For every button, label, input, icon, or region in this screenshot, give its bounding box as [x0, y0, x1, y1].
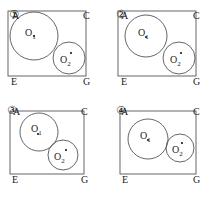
corner-label-c: C — [81, 107, 88, 117]
circle-o2-label: O2 — [60, 55, 71, 65]
circle-o2-center-dot — [180, 52, 182, 54]
panel-2: ② A C E G O1 O2 — [110, 0, 220, 99]
corner-label-c: C — [193, 11, 200, 21]
corner-label-g: G — [193, 175, 200, 185]
corner-label-c: C — [193, 107, 200, 117]
circle-o1-label: O1 — [25, 28, 36, 38]
corner-label-g: G — [193, 77, 200, 87]
circle-o1-label: O1 — [140, 131, 151, 141]
panel-1: ① A C E G O1 O2 — [0, 0, 110, 99]
circle-o2-center-dot — [181, 142, 183, 144]
circle-o2-label: O2 — [54, 152, 65, 162]
corner-label-a: A — [121, 107, 128, 117]
corner-label-e: E — [121, 77, 127, 87]
square-outline — [120, 111, 196, 174]
figure-root: ① A C E G O1 O2 ② A C E G O1 O2 — [0, 0, 220, 199]
square-outline — [8, 11, 86, 76]
corner-label-c: C — [83, 11, 90, 21]
corner-label-e: E — [122, 175, 128, 185]
corner-label-e: E — [11, 77, 17, 87]
circle-o1-label: O1 — [138, 28, 149, 38]
corner-label-g: G — [81, 175, 88, 185]
corner-label-e: E — [12, 175, 18, 185]
corner-label-g: G — [83, 77, 90, 87]
panel-4: ④ A C E G O1 O2 — [110, 99, 220, 198]
panel-3: ③ A C E G O1 O2 — [0, 99, 110, 198]
square-outline — [118, 11, 196, 76]
square-outline — [10, 111, 84, 174]
circle-o2-center-dot — [70, 52, 72, 54]
circle-o2-center-dot — [65, 149, 67, 151]
circle-o2-label: O2 — [172, 145, 183, 155]
circle-o1-label: O1 — [31, 124, 42, 134]
corner-label-a: A — [12, 11, 19, 21]
corner-label-a: A — [13, 107, 20, 117]
corner-label-a: A — [121, 11, 128, 21]
circle-o2-label: O2 — [170, 55, 181, 65]
